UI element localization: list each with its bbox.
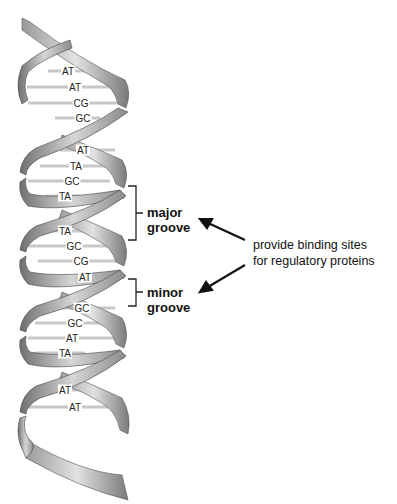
minor-groove-bracket [128, 279, 143, 306]
dna-diagram: AT AT CG GC AT TA GC TA TA GC CG AT GC G… [0, 0, 397, 504]
base-pair-label: GC [64, 176, 81, 187]
minor-groove-line2: groove [147, 300, 190, 315]
base-pair-label: TA [58, 191, 72, 202]
binding-sites-annotation: provide binding sites for regulatory pro… [253, 237, 375, 269]
base-pair-label: CG [73, 256, 90, 267]
base-pair-label: TA [58, 348, 72, 359]
major-groove-label: major groove [147, 205, 190, 235]
major-groove-bracket [128, 186, 143, 240]
base-pair-label: TA [58, 226, 72, 237]
base-pair-label: GC [74, 303, 91, 314]
base-pair-label: AT [78, 272, 92, 283]
base-pair-label: GC [66, 241, 83, 252]
minor-groove-label: minor groove [147, 285, 190, 315]
base-pair-label: AT [61, 66, 75, 77]
base-pair-label: AT [68, 82, 82, 93]
groove-brackets [128, 186, 143, 306]
base-pair-label: TA [69, 161, 83, 172]
base-pair-label: GC [75, 113, 92, 124]
base-pair-label: AT [76, 145, 90, 156]
base-pair-label: AT [68, 402, 82, 413]
major-groove-line1: major [147, 205, 190, 220]
base-pair-label: CG [73, 98, 90, 109]
annotation-line2: for regulatory proteins [253, 253, 375, 269]
minor-groove-line1: minor [147, 285, 190, 300]
annotation-line1: provide binding sites [253, 237, 375, 253]
base-pair-label: GC [67, 318, 84, 329]
base-pair-label: AT [65, 333, 79, 344]
pointer-arrows [200, 219, 245, 292]
major-groove-line2: groove [147, 220, 190, 235]
base-pair-label: AT [58, 385, 72, 396]
